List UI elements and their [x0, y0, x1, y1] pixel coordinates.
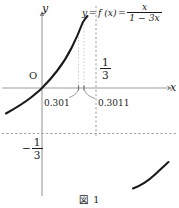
vertical-asymptote-label: 1 3 — [100, 57, 111, 80]
equation-function-notation: f (x) — [98, 8, 117, 17]
y-axis-label: y — [42, 3, 48, 14]
one-third-numerator: 1 — [100, 57, 111, 68]
one-third-denominator: 3 — [100, 69, 111, 80]
graph-canvas — [0, 0, 179, 208]
equation-equals-second: = — [118, 8, 126, 17]
leader-line-first-point — [69, 90, 78, 98]
point-label-first: 0.301 — [44, 99, 70, 108]
horizontal-asymptote-label: − 1 3 — [22, 137, 43, 160]
neg-one-third-numerator: 1 — [32, 137, 43, 148]
leader-line-second-point — [85, 90, 96, 99]
equation-numerator: x — [140, 2, 149, 12]
neg-one-third-fraction: 1 3 — [32, 137, 43, 160]
one-third-fraction: 1 3 — [100, 57, 111, 80]
equation-denominator: 1 − 3x — [127, 13, 161, 23]
neg-one-third-denominator: 3 — [32, 149, 43, 160]
equation-lhs: y — [82, 8, 87, 17]
function-curve-right-branch — [133, 162, 169, 189]
figure-caption: 図 1 — [0, 192, 179, 206]
equation-fraction: x 1 − 3x — [127, 2, 161, 22]
negative-sign: − — [22, 143, 31, 154]
figure-container: y x O y = f (x) = x 1 − 3x 1 3 − 1 3 0.3… — [0, 0, 179, 208]
function-equation-label: y = f (x) = x 1 − 3x — [82, 2, 162, 22]
point-label-second: 0.3011 — [98, 99, 130, 108]
x-axis-label: x — [170, 82, 176, 93]
origin-label: O — [29, 71, 37, 81]
equation-equals-first: = — [89, 8, 97, 17]
